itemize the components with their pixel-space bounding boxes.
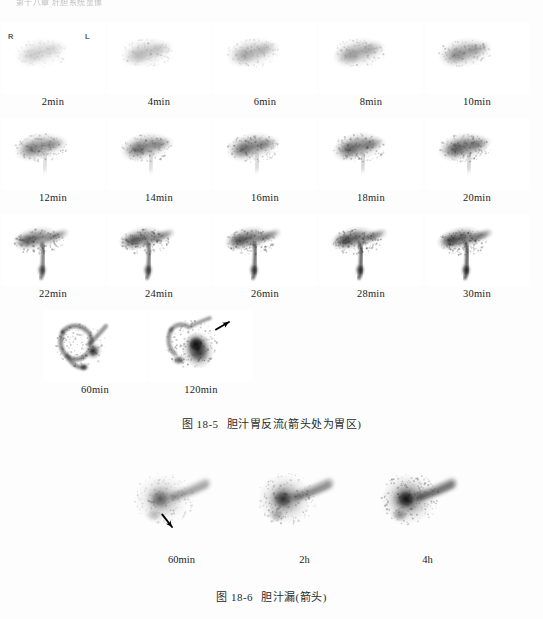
scan-time-label: 22min [39,288,67,300]
scan-frame-2min: RL2min [1,22,105,108]
bile-leak-image-4h [370,455,485,550]
scan-frame-28min: 28min [319,214,423,300]
bile-leak-time-label: 2h [299,554,310,565]
scan-row-4: 60min120min [42,310,282,396]
scan-frame-12min: 12min [1,118,105,204]
scintigram-image-18min [319,118,423,190]
scan-time-label: 60min [81,384,109,396]
scan-frame-120min: 120min [149,310,253,396]
scan-frame-24min: 24min [107,214,211,300]
scintigram-image-30min [425,214,529,286]
scan-time-label: 6min [254,96,276,108]
bile-leak-image-60min [124,455,239,550]
scan-time-label: 4min [148,96,170,108]
orientation-marker-left: L [85,32,90,41]
bile-leak-frame-60min: 60min [124,455,239,565]
scintigram-image-20min [425,118,529,190]
scan-frame-16min: 16min [213,118,317,204]
scintigram-image-120min [149,310,253,382]
figure-2-caption: 图 18-6胆汁漏(箭头) [0,588,543,604]
scan-frame-26min: 26min [213,214,317,300]
scan-time-label: 16min [251,192,279,204]
scan-time-label: 24min [145,288,173,300]
bile-leak-row: 60min2h4h [120,455,489,565]
scan-time-label: 8min [360,96,382,108]
scintigram-image-6min [213,22,317,94]
scan-time-label: 14min [145,192,173,204]
scintigram-image-26min [213,214,317,286]
scintigram-image-4min [107,22,211,94]
scintigram-image-22min [1,214,105,286]
scan-frame-14min: 14min [107,118,211,204]
scintigram-image-2min: RL [1,22,105,94]
scintigram-image-28min [319,214,423,286]
scan-time-label: 30min [463,288,491,300]
scan-time-label: 26min [251,288,279,300]
scan-time-label: 12min [39,192,67,204]
scan-time-label: 2min [42,96,64,108]
figure-1-title: 胆汁胃反流(箭头处为胃区) [227,418,362,430]
scan-time-label: 10min [463,96,491,108]
scintigram-image-8min [319,22,423,94]
running-header: 第十八章 肝胆系统显像 [16,0,102,7]
scan-frame-8min: 8min [319,22,423,108]
scintigram-image-12min [1,118,105,190]
scan-frame-6min: 6min [213,22,317,108]
scintigram-image-24min [107,214,211,286]
bile-leak-frame-4h: 4h [370,455,485,565]
scan-row-1: RL2min4min6min8min10min [0,22,543,108]
scintigram-image-16min [213,118,317,190]
figure-2-number: 图 18-6 [216,591,253,603]
scan-frame-4min: 4min [107,22,211,108]
scan-frame-10min: 10min [425,22,529,108]
document-page: 第十八章 肝胆系统显像 RL2min4min6min8min10min 12mi… [0,0,543,619]
bile-leak-image-2h [247,455,362,550]
scan-frame-22min: 22min [1,214,105,300]
figure-1-caption: 图 18-5胆汁胃反流(箭头处为胃区) [0,415,543,431]
scan-time-label: 120min [184,384,217,396]
scan-time-label: 28min [357,288,385,300]
scan-time-label: 18min [357,192,385,204]
scan-frame-20min: 20min [425,118,529,204]
figure-1-number: 图 18-5 [182,418,219,430]
scintigram-image-14min [107,118,211,190]
scan-row-3: 22min24min26min28min30min [0,214,543,300]
scan-frame-18min: 18min [319,118,423,204]
scan-row-2: 12min14min16min18min20min [0,118,543,204]
scan-frame-60min: 60min [43,310,147,396]
bile-leak-frame-2h: 2h [247,455,362,565]
figure-2-title: 胆汁漏(箭头) [261,591,327,603]
orientation-marker-right: R [8,32,13,41]
bile-leak-time-label: 4h [422,554,433,565]
scintigram-image-10min [425,22,529,94]
bile-leak-time-label: 60min [168,554,195,565]
scintigram-image-60min [43,310,147,382]
scan-frame-30min: 30min [425,214,529,300]
scan-time-label: 20min [463,192,491,204]
